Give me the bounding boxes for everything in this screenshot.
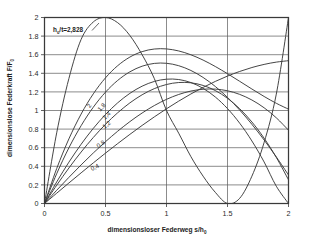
y-tick-label: 1 [35, 106, 39, 115]
y-tick-label: 2 [35, 13, 39, 22]
x-tick-label: 0.5 [101, 209, 111, 218]
y-tick-label: 0 [35, 199, 39, 208]
y-tick-label: 0.8 [29, 125, 39, 134]
y-tick-label: 0.4 [29, 162, 39, 171]
x-tick-label: 1 [165, 209, 169, 218]
y-tick-label: 1.6 [29, 50, 39, 59]
chart-container: 00.511.52 00.20.40.60.811.21.41.61.82 0,… [0, 0, 313, 243]
y-tick-label: 1.8 [29, 32, 39, 41]
y-tick-label: 0.6 [29, 143, 39, 152]
y-axis-title-subscript: 0 [10, 58, 15, 61]
x-axis-title-subscript: 0 [204, 230, 207, 235]
annotation-suffix: /t=2,828 [59, 26, 83, 34]
x-tick-label: 0 [43, 209, 47, 218]
y-axis-title-text: dimensionslose Federkraft F/F [6, 61, 13, 157]
x-tick-label: 2 [287, 209, 291, 218]
chart-background [0, 0, 313, 243]
y-tick-label: 1.4 [29, 69, 39, 78]
y-tick-label: 1.2 [29, 88, 39, 97]
spring-characteristic-chart: 00.511.52 00.20.40.60.811.21.41.61.82 0,… [0, 0, 313, 243]
x-tick-label: 1.5 [223, 209, 233, 218]
x-axis-title-text: dimensionsloser Federweg s/h [108, 226, 204, 234]
y-tick-label: 0.2 [29, 181, 39, 190]
